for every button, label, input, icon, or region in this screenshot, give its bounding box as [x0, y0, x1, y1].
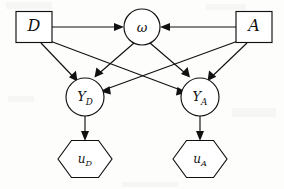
node-YD-shape[interactable]: [66, 78, 104, 116]
node-D-shape[interactable]: [16, 12, 52, 43]
node-uA-shape[interactable]: [173, 141, 227, 178]
edge-YA-to-uA: [196, 116, 204, 141]
node-YA-shape[interactable]: [181, 78, 219, 116]
influence-diagram-canvas: D A ω YD YA uD uA: [0, 0, 284, 189]
edge-D-to-omega: [52, 23, 124, 31]
edge-YD-to-uD: [81, 116, 89, 141]
node-uD-shape[interactable]: [58, 141, 112, 178]
node-A-shape[interactable]: [236, 12, 272, 43]
edge-A-to-YA: [208, 43, 248, 81]
node-omega-shape[interactable]: [124, 9, 160, 45]
diagram-graphics: [0, 0, 284, 189]
edge-A-to-omega: [160, 23, 236, 31]
